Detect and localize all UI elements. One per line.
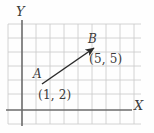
coordinate-plot-svg — [0, 0, 154, 133]
vector-diagram-figure: Y X A B (1, 2) (5, 5) — [0, 0, 154, 133]
x-axis-label: X — [134, 99, 143, 112]
point-a-label: A — [33, 68, 42, 80]
grid-lines-vertical — [8, 24, 134, 124]
grid-lines-horizontal — [8, 24, 141, 124]
point-b-coordinates: (5, 5) — [89, 53, 122, 65]
point-a-coordinates: (1, 2) — [38, 89, 71, 101]
y-axis-label: Y — [16, 5, 25, 18]
point-b-label: B — [88, 33, 97, 45]
